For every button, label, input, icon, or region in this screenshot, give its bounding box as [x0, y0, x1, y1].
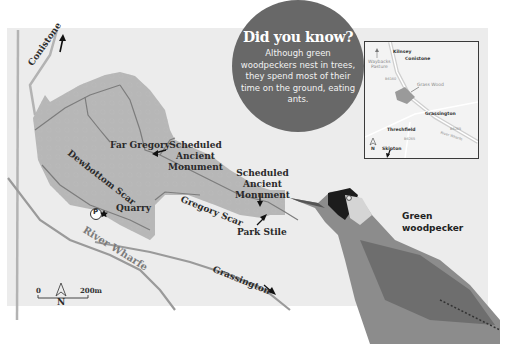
label-quarry: Quarry — [116, 203, 151, 213]
north-indicator: N — [57, 297, 65, 307]
label-scheduled-ancient-monument-1: Scheduled Ancient Monument — [168, 140, 223, 173]
inset-locator-map: Kilnsey Conistone Waybacks Pasture B6160… — [364, 41, 479, 159]
callout-title: Did you know? — [232, 29, 364, 45]
scale-start: 0 — [36, 286, 41, 295]
did-you-know-callout: Did you know? Although green woodpeckers… — [232, 0, 364, 132]
parking-icon: P — [93, 208, 98, 216]
callout-body: Although green woodpeckers nest in trees… — [232, 48, 364, 106]
label-far-gregory: Far Gregory — [110, 140, 170, 150]
scale-end: 200m — [80, 286, 102, 295]
label-park-stile: Park Stile — [237, 227, 287, 237]
label-scheduled-ancient-monument-2: Scheduled Ancient Monument — [235, 168, 290, 201]
bird-label: Green woodpecker — [402, 210, 463, 234]
